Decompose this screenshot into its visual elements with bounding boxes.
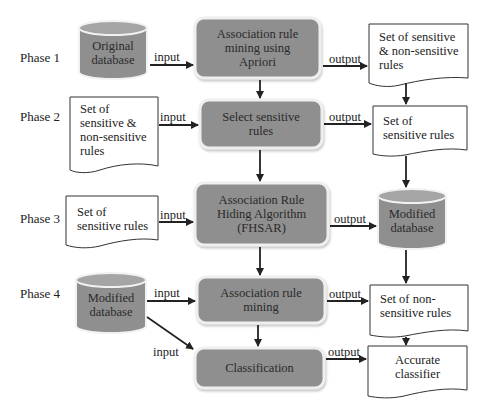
process-select-sensitive-label: Select sensitiverules bbox=[200, 102, 322, 146]
database-modified-output-label: Modifieddatabase bbox=[378, 204, 446, 238]
document-accurate-classifier-label: Accurateclassifier bbox=[368, 353, 467, 381]
database-original-label: Originaldatabase bbox=[79, 36, 147, 70]
document-non-sensitive-output-label: Set of non-sensitive rules bbox=[380, 292, 451, 320]
process-fhsar-label: Association RuleHiding Algorithm(FHSAR) bbox=[195, 185, 328, 243]
edge-label-output-1: output bbox=[329, 52, 361, 67]
edge-label-output-3: output bbox=[334, 212, 366, 227]
phase-2-label: Phase 2 bbox=[20, 109, 60, 125]
edge-label-output-5: output bbox=[328, 345, 360, 360]
process-apriori-label: Association rulemining usingApriori bbox=[195, 20, 320, 76]
document-all-rules-input-label: Set ofsensitive &non-sensitiverules bbox=[80, 102, 147, 158]
document-sensitive-input-label: Set ofsensitive rules bbox=[77, 205, 148, 233]
phase-1-label: Phase 1 bbox=[20, 50, 60, 66]
document-sensitive-output-label: Set ofsensitive rules bbox=[383, 114, 454, 142]
edge-label-output-2: output bbox=[329, 110, 361, 125]
edge-label-input-4: input bbox=[154, 286, 180, 301]
database-modified-input-label: Modifieddatabase bbox=[76, 288, 146, 322]
edge-label-input-5: input bbox=[153, 345, 179, 360]
edge-label-input-3: input bbox=[160, 208, 186, 223]
edge-label-input-1: input bbox=[154, 50, 180, 65]
edge-label-output-4: output bbox=[329, 287, 361, 302]
process-classification-label: Classification bbox=[195, 350, 324, 386]
phase-3-label: Phase 3 bbox=[20, 211, 60, 227]
phase-4-label: Phase 4 bbox=[20, 286, 60, 302]
document-all-rules-output-label: Set of sensitive& non-sensitiverules bbox=[379, 30, 459, 72]
edge-label-input-2: input bbox=[160, 110, 186, 125]
process-arm-label: Association rulemining bbox=[197, 279, 325, 321]
